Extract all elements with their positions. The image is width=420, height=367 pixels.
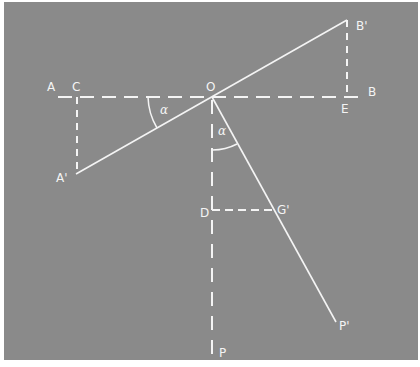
label-p: P <box>219 346 226 360</box>
label-a-prime: A' <box>56 171 68 185</box>
label-alpha-lower: α <box>218 124 226 138</box>
label-a: A <box>47 80 56 94</box>
label-b-prime: B' <box>356 19 368 33</box>
label-d: D <box>200 206 209 220</box>
label-c: C <box>72 80 80 94</box>
label-g-prime: G' <box>277 203 290 217</box>
label-b: B <box>368 85 376 99</box>
angle-arc-left <box>148 97 157 128</box>
label-e: E <box>341 102 349 116</box>
geometry-diagram: A C O B E B' A' D G' P' P α α <box>0 0 420 367</box>
label-alpha-left: α <box>160 103 168 117</box>
label-p-prime: P' <box>339 319 350 333</box>
angle-arc-lower <box>212 144 237 150</box>
label-o: O <box>206 80 215 94</box>
